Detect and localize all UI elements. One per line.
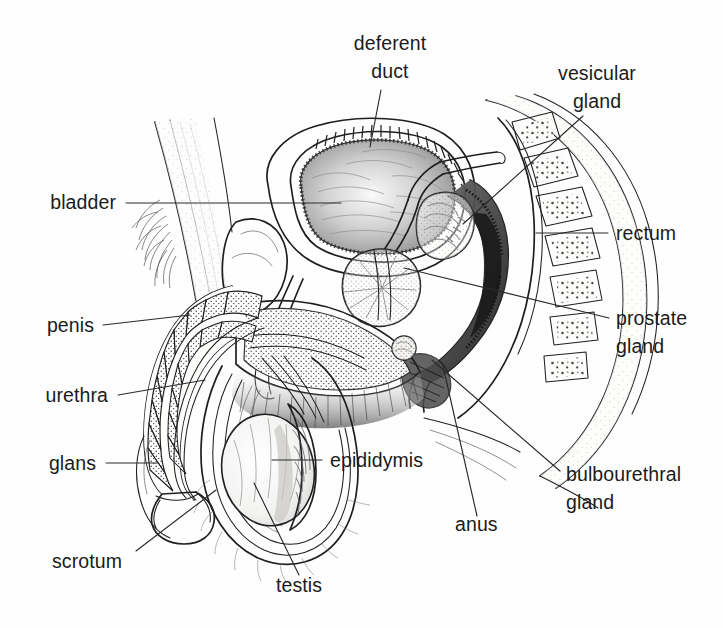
leader-scrotum: [136, 490, 216, 551]
label-vesicular-gland-line2: gland: [573, 90, 621, 112]
vesicular-gland: [417, 192, 474, 259]
label-vesicular-gland-line1: vesicular: [558, 62, 636, 84]
label-penis: penis: [47, 314, 94, 336]
prostate-gland: [342, 249, 420, 326]
bulbourethral-gland: [392, 336, 416, 360]
label-rectum: rectum: [616, 222, 676, 244]
abdominal-wall: [132, 118, 232, 300]
male-reproductive-system-diagram: deferent duct vesicular gland bladder re…: [0, 0, 723, 628]
label-glans: glans: [49, 452, 96, 474]
label-bladder: bladder: [50, 191, 116, 213]
pubic-hair: [132, 200, 176, 288]
label-prostate-gland-line2: gland: [616, 335, 664, 357]
glans: [151, 492, 214, 544]
leader-anus: [443, 366, 477, 516]
label-prostate-gland-line1: prostate: [616, 307, 687, 329]
label-scrotum: scrotum: [52, 550, 122, 572]
label-deferent-duct-line1: deferent: [354, 32, 427, 54]
label-deferent-duct-line2: duct: [371, 60, 409, 82]
label-anus: anus: [455, 513, 498, 535]
label-bulbourethral-gland-line1: bulbourethral: [566, 463, 681, 485]
label-urethra: urethra: [46, 384, 109, 406]
label-epididymis: epididymis: [330, 449, 423, 471]
figure-canvas: deferent duct vesicular gland bladder re…: [0, 0, 723, 628]
label-bulbourethral-gland-line2: gland: [566, 491, 614, 513]
label-testis: testis: [276, 574, 322, 596]
